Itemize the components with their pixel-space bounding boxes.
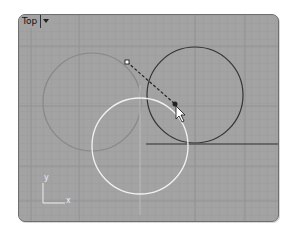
viewport-title-tab[interactable]: Top (19, 15, 52, 28)
snap-point[interactable] (173, 102, 178, 107)
viewport-canvas[interactable] (19, 15, 278, 221)
y-axis-label: y (44, 173, 49, 182)
x-axis-label: x (66, 196, 71, 205)
top-viewport[interactable]: y x Top (18, 14, 279, 222)
chevron-down-icon[interactable] (43, 19, 49, 23)
control-point-handle[interactable] (125, 60, 129, 64)
viewport-title: Top (22, 15, 41, 28)
